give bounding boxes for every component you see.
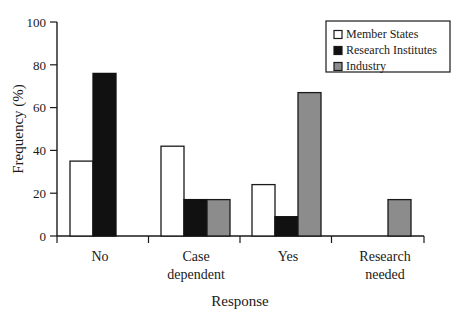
bar-no-research-institutes xyxy=(93,73,116,236)
y-tick-label-60: 60 xyxy=(33,100,46,115)
y-tick-label-0: 0 xyxy=(40,229,47,244)
legend-label-industry: Industry xyxy=(346,59,386,73)
bar-yes-member-states xyxy=(252,185,275,236)
x-label-case-dependent-line1: Case xyxy=(182,249,209,264)
legend-swatch-member-states xyxy=(334,31,342,39)
y-tick-label-100: 100 xyxy=(27,15,47,30)
bar-no-member-states xyxy=(70,161,93,236)
y-tick-label-40: 40 xyxy=(33,143,46,158)
bar-chart: 0 20 40 60 80 100 Frequency (%) xyxy=(0,0,470,317)
chart-legend: Member States Research Institutes Indust… xyxy=(326,21,450,73)
y-tick-label-20: 20 xyxy=(33,186,46,201)
bar-yes-industry xyxy=(298,93,321,236)
bar-case-dependent-research-institutes xyxy=(184,200,207,236)
bar-yes-research-institutes xyxy=(275,217,298,236)
bar-case-dependent-industry xyxy=(207,200,230,236)
x-label-no: No xyxy=(91,249,108,264)
bar-case-dependent-member-states xyxy=(161,146,184,236)
y-tick-label-80: 80 xyxy=(33,58,46,73)
x-label-yes: Yes xyxy=(278,249,298,264)
x-label-case-dependent-line2: dependent xyxy=(167,267,225,282)
y-axis-title: Frequency (%) xyxy=(10,84,27,174)
legend-label-research-institutes: Research Institutes xyxy=(346,43,437,57)
chart-svg: 0 20 40 60 80 100 Frequency (%) xyxy=(0,0,470,317)
bar-research-needed-industry xyxy=(388,200,411,236)
bar-group-research-needed xyxy=(388,200,411,236)
x-label-research-needed-line1: Research xyxy=(359,249,410,264)
legend-label-member-states: Member States xyxy=(346,27,419,41)
legend-swatch-research-institutes xyxy=(334,47,342,55)
x-axis-title: Response xyxy=(211,293,269,309)
legend-swatch-industry xyxy=(334,63,342,71)
x-label-research-needed-line2: needed xyxy=(365,267,405,282)
